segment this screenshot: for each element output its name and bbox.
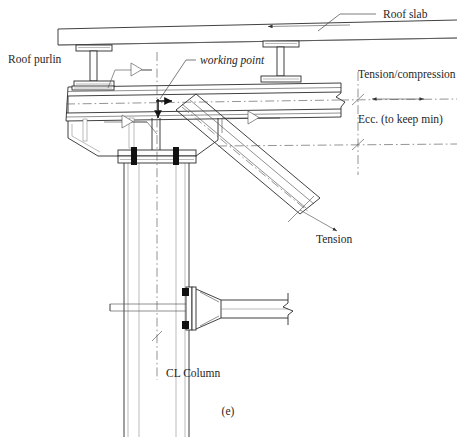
bolt-haunch-1 [182, 288, 189, 296]
bolt-haunch-2 [182, 321, 189, 329]
bolt-splice-2 [173, 147, 179, 165]
cl-column-label: CL Column [166, 367, 220, 379]
bolt-splice-1 [131, 147, 137, 165]
roof-purlin-label: Roof purlin [8, 53, 62, 66]
tension-compression-label: Tension/compression [358, 68, 456, 81]
working-point-label: working point [200, 54, 265, 67]
figure-container: Roof slab Roof purlin [0, 0, 457, 437]
structural-detail-drawing: Roof slab Roof purlin [0, 0, 457, 437]
roof-slab-label: Roof slab [383, 8, 428, 20]
tension-label: Tension [316, 233, 352, 245]
eccentricity-label: Ecc. (to keep min) [358, 113, 443, 126]
figure-caption: (e) [222, 405, 235, 418]
